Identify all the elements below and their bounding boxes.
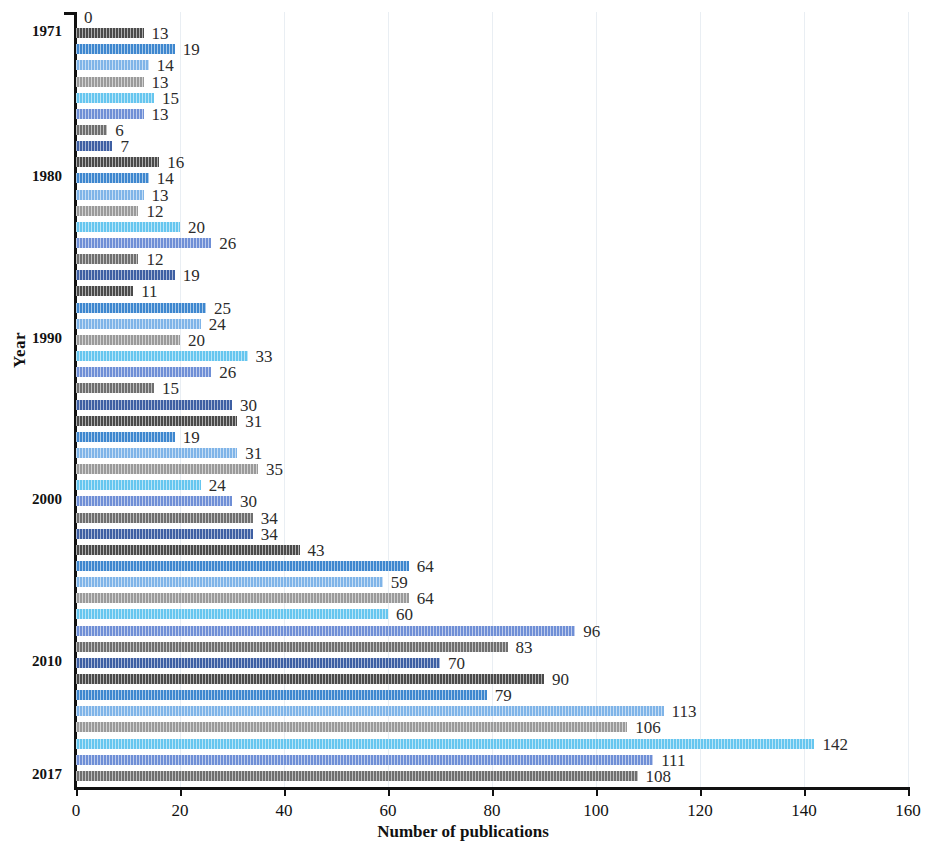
bar-row: 2017108 [76, 771, 908, 787]
bar-row: 111 [76, 755, 908, 771]
bar-value-label: 11 [141, 282, 157, 302]
bar-row: 15 [76, 93, 908, 109]
bar-row: 34 [76, 513, 908, 529]
x-tick-label-60: 60 [358, 801, 418, 821]
bar-value-label: 24 [209, 315, 226, 335]
bar-value-label: 19 [183, 428, 200, 448]
bar [76, 206, 138, 216]
bar-value-label: 0 [84, 8, 93, 28]
bar [76, 286, 133, 296]
bar [76, 400, 232, 410]
bar-row: 20 [76, 222, 908, 238]
bar-row: 31 [76, 448, 908, 464]
bar [76, 577, 383, 587]
bar-row: 19 [76, 44, 908, 60]
bar-row: 0 [76, 12, 908, 28]
bar-value-label: 30 [240, 492, 257, 512]
gridline-160 [908, 12, 909, 787]
bar [76, 706, 664, 716]
y-tick-label-2000: 2000 [32, 491, 62, 508]
bar-row: 59 [76, 577, 908, 593]
bar [76, 383, 154, 393]
bar [76, 674, 544, 684]
bar-row: 142 [76, 739, 908, 755]
x-tick-label-40: 40 [254, 801, 314, 821]
bar [76, 416, 237, 426]
bar-value-label: 31 [245, 444, 262, 464]
bar [76, 690, 487, 700]
bar-value-label: 13 [152, 105, 169, 125]
bar-row: 43 [76, 545, 908, 561]
x-tick-label-140: 140 [774, 801, 834, 821]
bar-row: 199020 [76, 335, 908, 351]
x-tick-label-100: 100 [566, 801, 626, 821]
bar [76, 351, 248, 361]
bar [76, 77, 144, 87]
bar-row: 198014 [76, 173, 908, 189]
bar-row: 79 [76, 690, 908, 706]
bar-value-label: 26 [219, 363, 236, 383]
y-axis-top-cap [64, 12, 76, 15]
bar-row: 7 [76, 141, 908, 157]
bar [76, 626, 575, 636]
bar [76, 448, 237, 458]
bar-row: 34 [76, 529, 908, 545]
bar-value-label: 43 [308, 541, 325, 561]
bar [76, 173, 149, 183]
bar [76, 109, 144, 119]
bar [76, 157, 159, 167]
bar-value-label: 108 [646, 767, 672, 787]
bar-row: 12 [76, 254, 908, 270]
x-tick-0 [76, 787, 78, 796]
y-tick-label-1980: 1980 [32, 168, 62, 185]
bar [76, 464, 258, 474]
bar [76, 739, 814, 749]
bar-row: 6 [76, 125, 908, 141]
x-tick-60 [388, 787, 390, 796]
bar-value-label: 60 [396, 605, 413, 625]
bar-row: 113 [76, 706, 908, 722]
x-tick-label-80: 80 [462, 801, 522, 821]
y-tick-label-1990: 1990 [32, 330, 62, 347]
bar [76, 545, 300, 555]
bar-row: 26 [76, 367, 908, 383]
bar [76, 222, 180, 232]
bar [76, 513, 253, 523]
bar-value-label: 90 [552, 670, 569, 690]
bar [76, 93, 154, 103]
bar [76, 125, 107, 135]
bar [76, 303, 206, 313]
bar [76, 432, 175, 442]
bar [76, 141, 112, 151]
bar [76, 609, 388, 619]
bar-value-label: 79 [495, 686, 512, 706]
bar-value-label: 33 [256, 347, 273, 367]
x-tick-160 [908, 787, 910, 796]
x-tick-label-160: 160 [878, 801, 926, 821]
bar-value-label: 19 [183, 266, 200, 286]
bar-value-label: 113 [672, 702, 697, 722]
bar-value-label: 59 [391, 573, 408, 593]
bar-row: 96 [76, 626, 908, 642]
bar [76, 60, 149, 70]
bar [76, 642, 508, 652]
bar-row: 15 [76, 383, 908, 399]
y-tick-label-1971: 1971 [32, 23, 62, 40]
bar-row: 19 [76, 270, 908, 286]
bar-row: 90 [76, 674, 908, 690]
bar-row: 24 [76, 480, 908, 496]
bar-row: 201070 [76, 658, 908, 674]
bar [76, 561, 409, 571]
bar-row: 13 [76, 77, 908, 93]
bar [76, 335, 180, 345]
bar-value-label: 12 [146, 250, 163, 270]
bar [76, 593, 409, 603]
x-axis-line [74, 787, 908, 790]
bar-value-label: 15 [162, 379, 179, 399]
bar [76, 319, 201, 329]
x-tick-label-20: 20 [150, 801, 210, 821]
plot-area: 0197113191413151367161980141312202612191… [76, 12, 908, 787]
bar-row: 19 [76, 432, 908, 448]
bar-row: 197113 [76, 28, 908, 44]
x-tick-120 [700, 787, 702, 796]
